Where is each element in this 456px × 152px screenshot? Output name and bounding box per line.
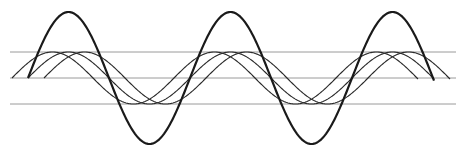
wave-diagram <box>0 0 456 152</box>
wave-diagram-canvas <box>0 0 456 152</box>
reference-lines <box>10 52 456 104</box>
